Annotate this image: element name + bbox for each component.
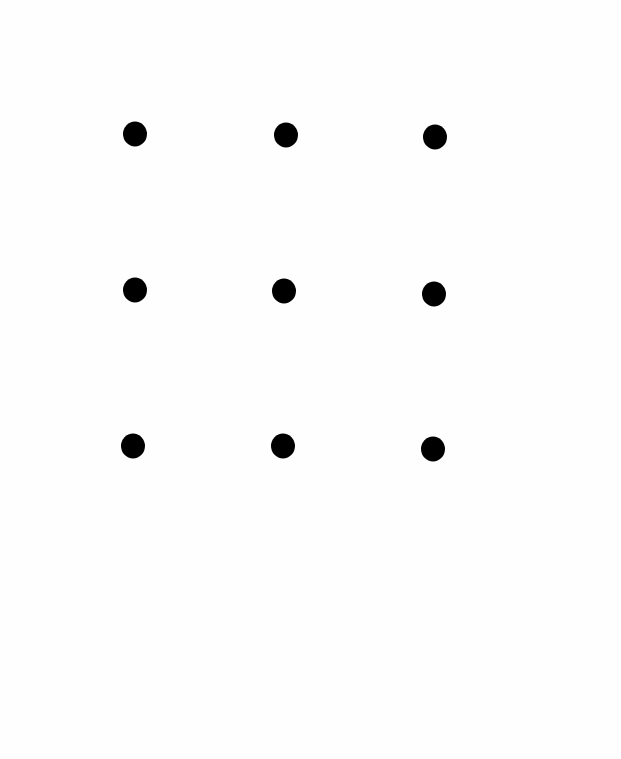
dot-r2-c2 bbox=[272, 279, 296, 304]
dot-r3-c1 bbox=[121, 434, 145, 459]
dot-r3-c2 bbox=[271, 434, 295, 459]
dot-r2-c3 bbox=[422, 282, 446, 307]
dot-r1-c3 bbox=[423, 125, 447, 150]
dot-r2-c1 bbox=[123, 278, 147, 303]
dot-r1-c1 bbox=[123, 122, 147, 147]
dot-grid-canvas bbox=[0, 0, 621, 759]
dot-r3-c3 bbox=[421, 437, 445, 462]
dot-r1-c2 bbox=[274, 123, 298, 148]
